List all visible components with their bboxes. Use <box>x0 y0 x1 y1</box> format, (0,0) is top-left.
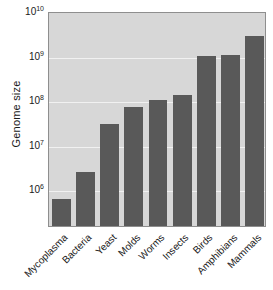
bar-yeast <box>100 124 119 227</box>
bar-mammals <box>245 36 264 226</box>
y-tick-exponent: 6 <box>40 183 44 190</box>
y-axis-title: Genome size <box>10 54 22 174</box>
y-axis-tick-label: 1010 <box>0 7 44 17</box>
y-tick-exponent: 10 <box>36 5 44 12</box>
genome-size-bar-chart: Genome size 1010109108107106 MycoplasmaB… <box>0 0 273 290</box>
y-tick-mantissa: 10 <box>29 51 40 62</box>
bar-mycoplasma <box>52 199 71 226</box>
y-tick-exponent: 9 <box>40 49 44 56</box>
y-axis-tick-label: 108 <box>0 96 44 106</box>
y-tick-exponent: 8 <box>40 94 44 101</box>
y-tick-mantissa: 10 <box>29 184 40 195</box>
y-tick-exponent: 7 <box>40 138 44 145</box>
bar-molds <box>124 107 143 226</box>
y-axis-tick-label: 109 <box>0 52 44 62</box>
y-tick-mantissa: 10 <box>29 140 40 151</box>
y-tick-mantissa: 10 <box>29 95 40 106</box>
y-axis-tick-label: 107 <box>0 141 44 151</box>
bar-amphibians <box>221 55 240 226</box>
plot-area <box>48 12 266 227</box>
y-tick-mantissa: 10 <box>25 6 36 17</box>
y-axis-tick-label: 106 <box>0 185 44 195</box>
bar-bacteria <box>76 172 95 226</box>
bar-insects <box>173 95 192 226</box>
bar-birds <box>197 56 216 226</box>
bar-worms <box>149 100 168 226</box>
